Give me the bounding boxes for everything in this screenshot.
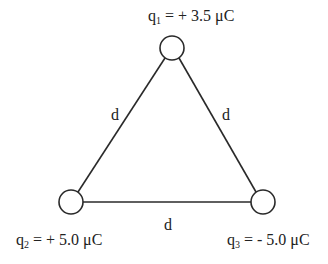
side-right xyxy=(179,58,256,192)
side-left xyxy=(78,58,165,192)
charge-q1-value: = + 3.5 μC xyxy=(161,7,234,24)
charge-q2-circle xyxy=(59,190,83,214)
charge-q3-symbol: q xyxy=(227,231,235,248)
charge-q1-label: q1 = + 3.5 μC xyxy=(148,8,234,26)
charge-q3-circle xyxy=(251,190,275,214)
charge-q2-label: q2 = + 5.0 μC xyxy=(16,232,102,250)
charge-triangle-diagram: q1 = + 3.5 μC q2 = + 5.0 μC q3 = - 5.0 μ… xyxy=(0,0,328,264)
side-right-label: d xyxy=(222,107,230,123)
charge-q1-circle xyxy=(160,36,184,60)
charge-q3-value: = - 5.0 μC xyxy=(240,231,310,248)
charge-q2-value: = + 5.0 μC xyxy=(29,231,102,248)
side-bottom-label: d xyxy=(164,217,172,233)
charge-q2-symbol: q xyxy=(16,231,24,248)
charge-q3-label: q3 = - 5.0 μC xyxy=(227,232,310,250)
charge-q1-symbol: q xyxy=(148,7,156,24)
side-left-label: d xyxy=(111,107,119,123)
